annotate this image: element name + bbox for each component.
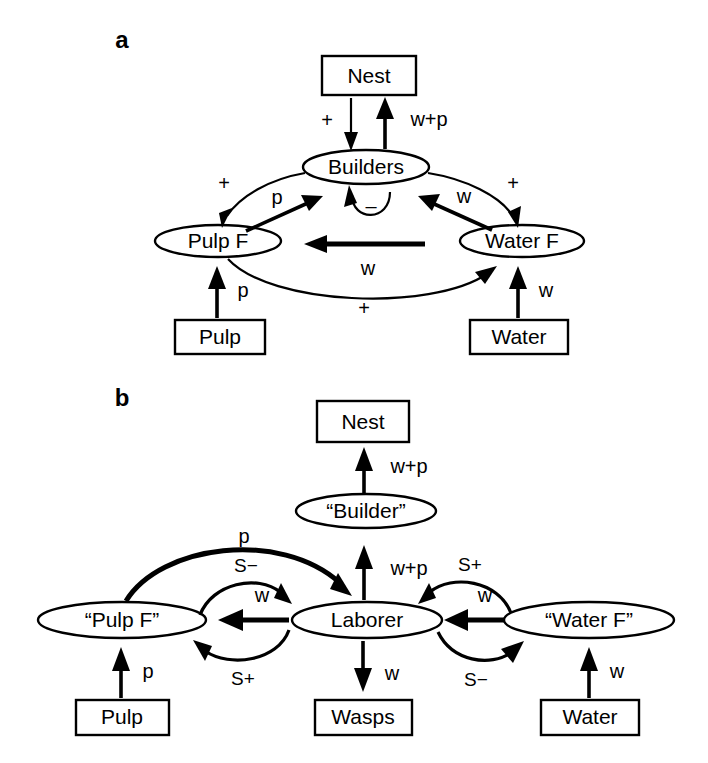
node-b-nest: Nest [317, 401, 409, 442]
b-water-label: Water [562, 705, 617, 728]
edge-b-water-to-waterf: w [580, 647, 625, 698]
b-waterf-laborer-s-head [418, 583, 436, 604]
a-builders-waterf-label: + [507, 172, 519, 194]
node-a-waterf: Water F [460, 225, 584, 257]
node-a-pulp: Pulp [175, 320, 265, 354]
edge-a-builders-to-nest: w+p [376, 97, 448, 149]
b-pulpf-laborer-p-label: p [238, 525, 249, 547]
b-laborer-waterf-s-label: S− [464, 669, 488, 690]
b-laborer-wasps-head [354, 668, 372, 692]
a-nest-builders-label: + [321, 109, 333, 131]
node-a-water: Water [470, 320, 568, 354]
b-wasps-label: Wasps [331, 705, 394, 728]
node-b-pulp: Pulp [76, 700, 169, 735]
panel-a-letter: a [115, 26, 129, 53]
a-pulpf-waterf-label: + [358, 297, 370, 319]
a-waterf-builders-head [418, 194, 440, 211]
edge-b-pulp-to-pulpf: p [112, 647, 154, 698]
panel-b: b Nest “Builder” Laborer “Pulp F” “Water… [38, 384, 674, 735]
a-pulpf-builders-label: p [271, 186, 282, 208]
edge-b-pulpf-to-laborer-s: S− [200, 555, 292, 615]
edge-a-waterf-to-pulpf: w [304, 235, 425, 279]
edge-a-builders-to-pulpf: + [218, 172, 305, 228]
edge-a-builders-to-waterf: + [428, 172, 521, 228]
edge-a-pulpf-to-builders: p [246, 186, 323, 231]
a-water-waterf-label: w [538, 279, 554, 301]
a-nest-label: Nest [347, 64, 390, 87]
edge-b-builder-to-nest: w+p [355, 447, 428, 493]
b-pulpf-label: “Pulp F” [85, 608, 160, 631]
edge-a-builders-self: – [344, 185, 390, 217]
a-builders-self-head [344, 185, 357, 207]
edge-b-laborer-to-builder: w+p [355, 545, 428, 600]
figure-root: a Nest Builders Pulp F Water F Pulp [0, 0, 708, 763]
edge-a-nest-to-builders: + [321, 98, 358, 151]
b-pulp-pulpf-head [112, 647, 130, 671]
node-b-pulpf: “Pulp F” [38, 602, 206, 638]
edge-b-laborer-to-wasps: w [354, 641, 400, 692]
b-laborer-pulpf-w-head [218, 609, 243, 631]
edge-a-water-to-waterf: w [509, 266, 554, 318]
a-waterf-pulpf-label: w [360, 257, 376, 279]
b-water-waterf-head [580, 647, 598, 671]
b-laborer-label: Laborer [331, 608, 403, 631]
b-pulp-pulpf-label: p [142, 660, 153, 682]
a-waterf-label: Water F [485, 229, 559, 252]
edge-a-pulp-to-pulpf: p [208, 266, 249, 318]
a-builders-label: Builders [328, 155, 404, 178]
b-waterf-laborer-w-head [444, 609, 468, 631]
b-waterf-label: “Water F” [545, 608, 633, 631]
b-pulp-label: Pulp [101, 705, 143, 728]
a-waterf-pulpf-head [304, 235, 327, 253]
node-a-nest: Nest [322, 56, 416, 95]
a-pulp-label: Pulp [199, 325, 241, 348]
b-laborer-pulpf-s-label: S+ [231, 668, 255, 689]
node-b-builder: “Builder” [296, 494, 436, 528]
b-builder-nest-head [355, 447, 373, 471]
a-pulp-pulpf-head [208, 266, 226, 289]
b-pulpf-laborer-s-label: S− [234, 555, 258, 576]
b-laborer-waterf-s-curve [438, 632, 512, 660]
a-water-waterf-head [509, 266, 527, 289]
b-waterf-laborer-s-label: S+ [458, 554, 482, 575]
a-pulp-pulpf-label: p [237, 279, 248, 301]
edge-b-laborer-to-waterf-s: S− [438, 632, 524, 690]
b-laborer-builder-label: w+p [389, 557, 427, 579]
b-laborer-pulpf-w-label: w [254, 584, 270, 606]
a-builders-nest-head [376, 97, 394, 119]
b-pulpf-laborer-p-curve [126, 550, 340, 601]
a-water-label: Water [491, 325, 546, 348]
b-laborer-wasps-label: w [384, 662, 400, 684]
b-laborer-waterf-s-head [501, 641, 524, 663]
a-builders-pulpf-label: + [218, 172, 230, 194]
b-builder-nest-label: w+p [389, 455, 427, 477]
a-waterf-builders-label: w [456, 185, 472, 207]
node-a-builders: Builders [303, 150, 429, 184]
node-b-waterf: “Water F” [504, 602, 674, 638]
b-waterf-laborer-s-curve [430, 582, 511, 613]
panel-a: a Nest Builders Pulp F Water F Pulp [115, 26, 584, 354]
b-laborer-pulpf-s-curve [205, 630, 289, 660]
a-pulpf-label: Pulp F [188, 229, 249, 252]
node-a-pulpf: Pulp F [155, 225, 281, 257]
node-b-wasps: Wasps [315, 700, 412, 735]
edge-b-waterf-to-laborer-s: S+ [418, 554, 511, 613]
b-water-waterf-label: w [609, 660, 625, 682]
a-builders-self-label: – [365, 195, 377, 217]
b-laborer-builder-head [355, 545, 373, 569]
a-pulpf-waterf-head [475, 266, 497, 284]
a-pulpf-waterf-curve [228, 259, 487, 299]
edge-b-laborer-to-pulpf-s: S+ [193, 630, 289, 689]
panel-b-letter: b [115, 384, 130, 411]
a-nest-builders-head [344, 132, 358, 151]
b-nest-label: Nest [341, 410, 384, 433]
b-builder-label: “Builder” [326, 499, 405, 522]
wasp-nest-construction-diagram: a Nest Builders Pulp F Water F Pulp [0, 0, 708, 763]
b-waterf-laborer-w-label: w [477, 584, 493, 606]
node-b-laborer: Laborer [292, 602, 442, 638]
b-laborer-pulpf-s-head [193, 640, 212, 661]
b-pulpf-laborer-s-head [274, 583, 292, 604]
edge-a-waterf-to-builders: w [418, 185, 492, 230]
node-b-water: Water [541, 700, 639, 735]
a-builders-nest-label: w+p [409, 108, 447, 130]
